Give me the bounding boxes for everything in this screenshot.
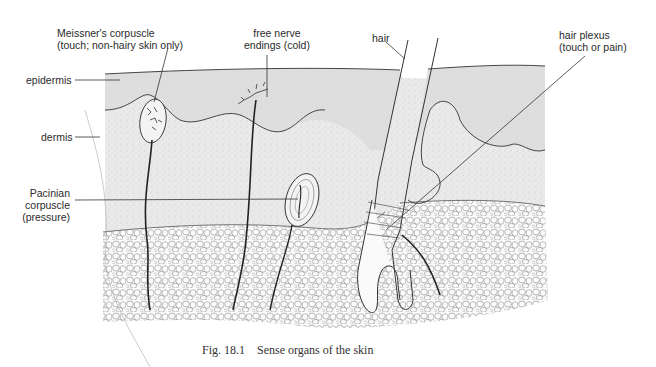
figure-caption: Fig. 18.1Sense organs of the skin	[202, 343, 373, 358]
label-hair-plexus-line1: hair plexus	[559, 29, 627, 41]
leader-hair	[386, 42, 405, 59]
label-meissner-corpuscle: Meissner's corpuscle (touch; non-hairy s…	[57, 27, 183, 51]
skin-diagram	[0, 0, 656, 367]
label-pacinian-line2: corpuscle	[20, 199, 70, 211]
figure-number: Fig. 18.1	[202, 343, 245, 357]
label-pacinian-line1: Pacinian	[20, 187, 70, 199]
label-free-nerve-endings: free nerve endings (cold)	[244, 27, 310, 51]
label-hair-plexus: hair plexus (touch or pain)	[559, 29, 627, 53]
label-pacinian-corpuscle: Pacinian corpuscle (pressure)	[20, 187, 70, 223]
figure-caption-text: Sense organs of the skin	[257, 343, 373, 357]
label-dermis: dermis	[41, 131, 73, 143]
label-epidermis: epidermis	[26, 74, 72, 86]
label-meissner-line2: (touch; non-hairy skin only)	[57, 39, 183, 51]
label-hair: hair	[372, 32, 390, 44]
label-free-nerve-line2: endings (cold)	[244, 39, 310, 51]
label-pacinian-line3: (pressure)	[20, 211, 70, 223]
label-meissner-line1: Meissner's corpuscle	[57, 27, 183, 39]
label-hair-plexus-line2: (touch or pain)	[559, 41, 627, 53]
label-free-nerve-line1: free nerve	[244, 27, 310, 39]
